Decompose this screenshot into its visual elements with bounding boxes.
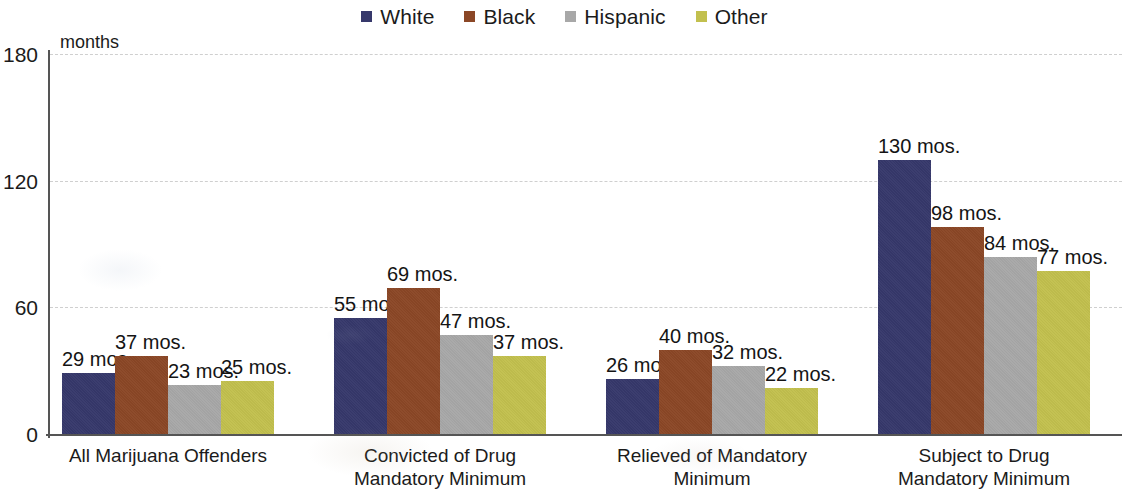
bar-value-label: 77 mos. (1037, 247, 1108, 267)
bar-rect (606, 379, 659, 434)
bar-white-group2[interactable]: 55 mos. (334, 54, 387, 434)
bar-value-label: 22 mos. (765, 364, 836, 384)
bar-black-group4[interactable]: 98 mos. (931, 54, 984, 434)
bar-rect (765, 388, 818, 434)
bar-rect (1037, 271, 1090, 434)
bar-rect (493, 356, 546, 434)
y-tick-label: 120 (0, 171, 38, 192)
bar-group-3: 26 mos.40 mos.32 mos.22 mos. (606, 54, 818, 434)
bar-rect (62, 373, 115, 434)
bar-rect (168, 385, 221, 434)
bar-other-group2[interactable]: 37 mos. (493, 54, 546, 434)
y-axis-line (48, 50, 50, 438)
bar-black-group2[interactable]: 69 mos. (387, 54, 440, 434)
bar-value-label: 37 mos. (493, 332, 564, 352)
legend-swatch-icon (464, 11, 475, 22)
bar-rect (931, 227, 984, 434)
bar-hispanic-group1[interactable]: 23 mos. (168, 54, 221, 434)
bar-rect (984, 257, 1037, 434)
bar-rect (659, 350, 712, 434)
bar-white-group3[interactable]: 26 mos. (606, 54, 659, 434)
bar-rect (878, 160, 931, 434)
legend-item-label: Hispanic (584, 6, 665, 27)
y-tick-label: 0 (0, 424, 38, 445)
legend-swatch-icon (565, 11, 576, 22)
bar-value-label: 25 mos. (221, 357, 292, 377)
legend-swatch-icon (696, 11, 707, 22)
x-axis-line (46, 434, 1122, 436)
bar-hispanic-group3[interactable]: 32 mos. (712, 54, 765, 434)
bar-group-1: 29 mos.37 mos.23 mos.25 mos. (62, 54, 274, 434)
y-axis-unit-label: months (60, 32, 119, 53)
bar-hispanic-group4[interactable]: 84 mos. (984, 54, 1037, 434)
bar-rect (115, 356, 168, 434)
category-label-4: Subject to Drug Mandatory Minimum (818, 444, 1129, 490)
y-tick-label: 180 (0, 44, 38, 65)
legend-item-hispanic[interactable]: Hispanic (565, 6, 665, 27)
bar-rect (712, 366, 765, 434)
bar-other-group3[interactable]: 22 mos. (765, 54, 818, 434)
legend-item-black[interactable]: Black (464, 6, 535, 27)
bar-white-group1[interactable]: 29 mos. (62, 54, 115, 434)
bar-hispanic-group2[interactable]: 47 mos. (440, 54, 493, 434)
bar-rect (334, 318, 387, 434)
bar-white-group4[interactable]: 130 mos. (878, 54, 931, 434)
grouped-bar-chart: WhiteBlackHispanicOther months 060120180… (0, 0, 1129, 496)
legend-swatch-icon (361, 11, 372, 22)
bar-rect (440, 335, 493, 434)
bar-black-group3[interactable]: 40 mos. (659, 54, 712, 434)
legend-item-label: Other (715, 6, 768, 27)
bar-rect (387, 288, 440, 434)
legend-item-white[interactable]: White (361, 6, 434, 27)
legend-item-label: White (380, 6, 434, 27)
bar-group-4: 130 mos.98 mos.84 mos.77 mos. (878, 54, 1090, 434)
plot-area: months 060120180 29 mos.37 mos.23 mos.25… (48, 54, 1122, 434)
legend-item-other[interactable]: Other (696, 6, 768, 27)
bar-other-group4[interactable]: 77 mos. (1037, 54, 1090, 434)
bar-group-2: 55 mos.69 mos.47 mos.37 mos. (334, 54, 546, 434)
legend-item-label: Black (483, 6, 535, 27)
bar-other-group1[interactable]: 25 mos. (221, 54, 274, 434)
bar-rect (221, 381, 274, 434)
bar-black-group1[interactable]: 37 mos. (115, 54, 168, 434)
chart-legend: WhiteBlackHispanicOther (0, 6, 1129, 27)
y-tick-label: 60 (0, 297, 38, 318)
